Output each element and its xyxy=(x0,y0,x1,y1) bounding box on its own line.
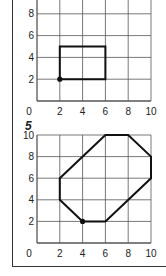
y-tick-label: 4 xyxy=(28,52,34,63)
y-tick-label: 6 xyxy=(28,30,34,41)
y-tick-label: 8 xyxy=(28,8,34,19)
y-tick-label: 4 xyxy=(28,194,34,205)
coordinate-diagrams: 02468102468 02468102468105 xyxy=(0,0,166,276)
x-tick-label: 0 xyxy=(26,106,32,117)
y-tick-label: 8 xyxy=(28,151,34,162)
x-tick-label: 10 xyxy=(145,106,157,117)
x-tick-label: 2 xyxy=(57,106,63,117)
y-tick-label: 6 xyxy=(28,173,34,184)
x-tick-label: 4 xyxy=(80,248,86,259)
y-tick-label: 2 xyxy=(28,74,34,85)
grid-top: 02468102468 xyxy=(26,0,157,117)
y-tick-label: 2 xyxy=(28,216,34,227)
x-tick-label: 0 xyxy=(26,248,32,259)
x-tick-label: 8 xyxy=(125,248,131,259)
x-tick-label: 6 xyxy=(103,106,109,117)
x-tick-label: 2 xyxy=(57,248,63,259)
x-tick-label: 10 xyxy=(145,248,157,259)
x-tick-label: 6 xyxy=(103,248,109,259)
figure-number-label: 5 xyxy=(25,119,32,133)
x-tick-label: 8 xyxy=(125,106,131,117)
grid-bottom: 02468102468105 xyxy=(23,119,157,259)
start-point-dot xyxy=(80,219,85,224)
start-point-dot xyxy=(57,77,62,82)
x-tick-label: 4 xyxy=(80,106,86,117)
